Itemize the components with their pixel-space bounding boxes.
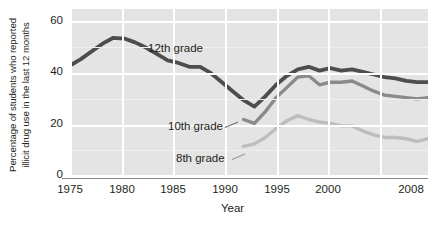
gridline-y-10 <box>70 150 428 151</box>
y-tick-label-20: 20 <box>35 117 63 129</box>
y-tick-label-40: 40 <box>35 65 63 77</box>
x-axis-title-text: Year <box>221 202 244 214</box>
gridline-y-40 <box>70 73 428 75</box>
series-label-10th-grade: 10th grade <box>168 120 223 132</box>
chart-figure: Percentage of students who reported illi… <box>0 0 437 228</box>
gridline-x-1980 <box>122 9 124 176</box>
gridline-y-50 <box>70 47 428 48</box>
y-axis-title-line2: illicit drug use in the last 12 months <box>20 18 33 172</box>
series-label-12th-grade: 12th grade <box>148 42 203 54</box>
x-tick-label-1975: 1975 <box>40 183 100 195</box>
x-axis-line <box>62 178 428 179</box>
gridline-x-2005 <box>380 9 382 176</box>
gridline-y-0 <box>70 175 428 177</box>
y-tick-label-60: 60 <box>35 14 63 26</box>
x-tick-label-2000: 2000 <box>298 183 358 195</box>
line-8th-grade <box>244 116 428 147</box>
x-tick-label-2008: 2008 <box>381 183 437 195</box>
gridline-y-60 <box>70 21 428 23</box>
plot-area <box>70 9 428 176</box>
x-axis-title: Year <box>0 202 437 214</box>
x-tick-label-1985: 1985 <box>143 183 203 195</box>
gridline-x-1975 <box>70 9 72 176</box>
gridline-x-1995 <box>277 9 279 176</box>
gridline-x-1990 <box>225 9 227 176</box>
gridline-x-1985 <box>173 9 175 176</box>
series-label-8th-grade: 8th grade <box>176 152 225 164</box>
gridline-x-2000 <box>328 9 330 176</box>
x-tick-label-1990: 1990 <box>195 183 255 195</box>
y-tick-label-0: 0 <box>35 168 63 180</box>
gridline-y-20 <box>70 125 428 127</box>
y-axis-title-line1: Percentage of students who reported <box>7 18 20 172</box>
y-axis-title: Percentage of students who reported illi… <box>0 0 40 190</box>
gridline-y-30 <box>70 99 428 100</box>
